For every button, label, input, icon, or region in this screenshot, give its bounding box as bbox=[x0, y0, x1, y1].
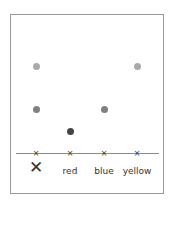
lane-label-red: red bbox=[63, 166, 78, 176]
lane-label-yellow: yellow bbox=[123, 166, 152, 176]
lane-label-x: ✕ bbox=[29, 159, 43, 176]
start-marker: × bbox=[66, 150, 74, 158]
spot-yellow bbox=[134, 63, 141, 70]
lane-label-blue: blue bbox=[94, 166, 113, 176]
spot-blue bbox=[101, 106, 108, 113]
spot-red bbox=[67, 128, 74, 135]
spot-x-upper bbox=[33, 63, 40, 70]
start-marker: × bbox=[133, 150, 141, 158]
spot-x-lower bbox=[33, 106, 40, 113]
start-marker: × bbox=[100, 150, 108, 158]
